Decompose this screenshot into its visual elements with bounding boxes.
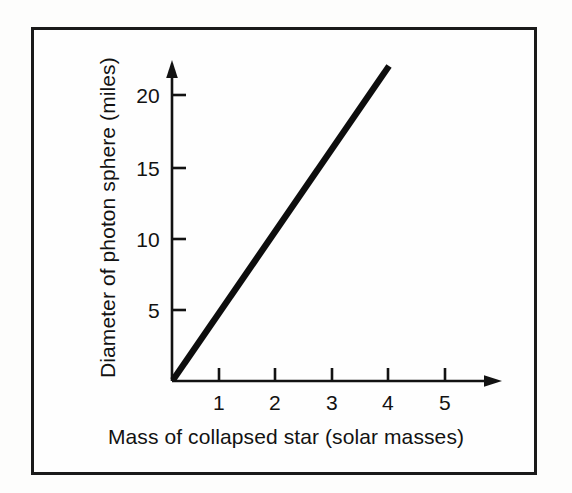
x-tick-label-2: 2 bbox=[269, 392, 281, 413]
x-tick-label-4: 4 bbox=[382, 392, 394, 413]
x-axis-title: Mass of collapsed star (solar masses) bbox=[0, 425, 572, 449]
x-tick-label-3: 3 bbox=[326, 392, 338, 413]
x-tick-label-1: 1 bbox=[213, 392, 225, 413]
y-axis-title: Diameter of photon sphere (miles) bbox=[96, 57, 120, 378]
x-tick-label-5: 5 bbox=[439, 392, 451, 413]
figure-page: 20 15 10 5 1 2 3 4 5 Diameter of photon … bbox=[0, 0, 572, 493]
